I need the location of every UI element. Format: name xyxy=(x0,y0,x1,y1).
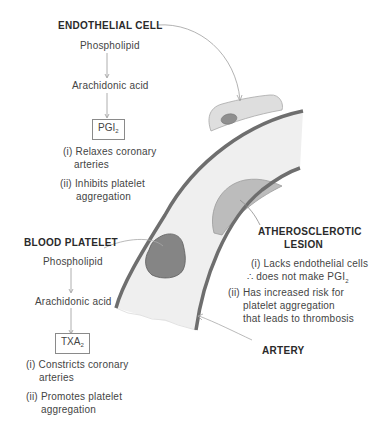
pgi2-box: PGI2 xyxy=(92,119,125,140)
platelet-effect-1-cont: arteries xyxy=(39,371,74,384)
effect-number: (ii) xyxy=(60,178,72,189)
platelet-effect-2-cont: aggregation xyxy=(41,403,96,416)
pgi2-subscript: 2 xyxy=(115,128,118,134)
artery-label: ARTERY xyxy=(262,344,305,357)
txa2-subscript: 2 xyxy=(80,342,83,348)
endothelial-cell-title: ENDOTHELIAL CELL xyxy=(58,19,163,32)
pgi2-label: PGI xyxy=(98,122,115,133)
effect-number: (i) xyxy=(26,359,35,370)
platelet-phospholipid: Phospholipid xyxy=(43,255,103,268)
blood-platelet-title: BLOOD PLATELET xyxy=(24,236,118,249)
effect-number: (i) xyxy=(251,258,260,269)
lesion-effect-2-cont2: that leads to thrombosis xyxy=(243,312,354,325)
endothelial-effect-1-cont: arteries xyxy=(74,158,109,171)
endothelial-arachidonic-acid: Arachidonic acid xyxy=(72,79,149,92)
effect-text: Constricts coronary xyxy=(38,359,128,370)
platelet-effect-1: (i) Constricts coronary xyxy=(26,358,128,371)
lesion-title-line2: LESION xyxy=(284,238,323,251)
platelet-effect-2: (ii) Promotes platelet xyxy=(26,390,122,403)
effect-text: Inhibits platelet xyxy=(75,178,145,189)
effect-text: Has increased risk for xyxy=(243,287,344,298)
lesion-effect-2: (ii) Has increased risk for xyxy=(228,286,344,299)
txa2-box: TXA2 xyxy=(55,333,90,354)
endothelial-effect-2-cont: aggregation xyxy=(76,190,131,203)
lesion-title-line1: ATHEROSCLEROTIC xyxy=(258,225,362,238)
endothelial-effect-2: (ii) Inhibits platelet xyxy=(60,177,145,190)
effect-text: Promotes platelet xyxy=(41,391,122,402)
pgi2-subscript: 2 xyxy=(345,278,349,284)
effect-text: Relaxes coronary xyxy=(75,146,156,157)
effect-number: (ii) xyxy=(228,287,240,298)
effect-text: Lacks endothelial cells xyxy=(263,258,368,269)
txa2-label: TXA xyxy=(61,336,80,347)
effect-text: ∴ does not make PGI xyxy=(247,271,345,282)
lesion-effect-2-cont1: platelet aggregation xyxy=(243,299,335,312)
effect-number: (i) xyxy=(63,146,72,157)
endothelial-leader-line xyxy=(157,25,240,100)
endothelial-effect-1: (i) Relaxes coronary xyxy=(63,145,156,158)
endothelial-phospholipid: Phospholipid xyxy=(80,39,140,52)
lesion-effect-1: (i) Lacks endothelial cells xyxy=(251,257,368,270)
platelet-arachidonic-acid: Arachidonic acid xyxy=(35,295,112,308)
effect-number: (ii) xyxy=(26,391,38,402)
